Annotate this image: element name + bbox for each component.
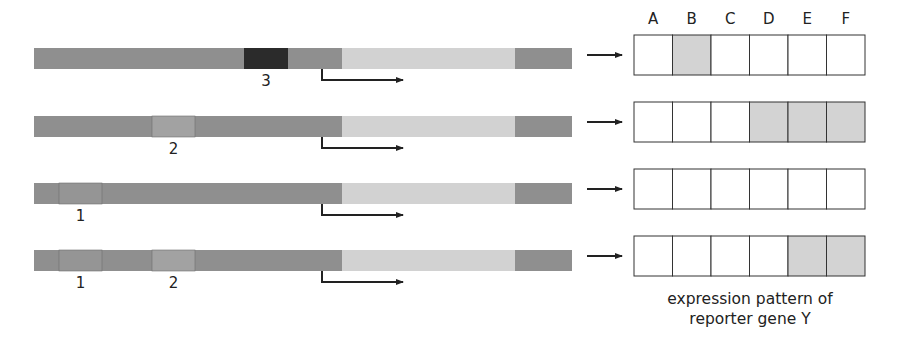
column-header-f: F bbox=[841, 10, 850, 28]
column-header-a: A bbox=[648, 10, 659, 28]
expression-cell-f bbox=[827, 102, 866, 142]
expression-cell-f bbox=[827, 35, 866, 75]
expression-cell-a bbox=[634, 236, 673, 276]
element-label-2: 2 bbox=[169, 140, 179, 158]
expression-grid bbox=[634, 35, 865, 75]
expression-cell-b bbox=[673, 102, 712, 142]
column-header-c: C bbox=[725, 10, 735, 28]
expression-cell-c bbox=[711, 102, 750, 142]
expression-cell-b bbox=[673, 236, 712, 276]
construct-row: 2 bbox=[34, 102, 865, 158]
transcription-start-arrow bbox=[322, 271, 403, 282]
regulatory-region bbox=[34, 48, 342, 69]
expression-grid bbox=[634, 236, 865, 276]
expression-grid bbox=[634, 169, 865, 209]
expression-cell-f bbox=[827, 236, 866, 276]
expression-cell-b bbox=[673, 35, 712, 75]
regulatory-element-2 bbox=[152, 116, 195, 137]
construct-row: 3 bbox=[34, 35, 865, 90]
expression-grid bbox=[634, 102, 865, 142]
caption-line-2: reporter gene Y bbox=[689, 310, 811, 328]
element-label-1: 1 bbox=[76, 207, 86, 225]
expression-cell-e bbox=[788, 236, 827, 276]
construct-row: 12 bbox=[34, 236, 865, 292]
element-label-2: 2 bbox=[169, 274, 179, 292]
terminator-region bbox=[515, 183, 572, 204]
column-header-d: D bbox=[763, 10, 775, 28]
expression-cell-c bbox=[711, 35, 750, 75]
expression-cell-d bbox=[750, 35, 789, 75]
reporter-gene-y bbox=[342, 48, 515, 69]
expression-cell-f bbox=[827, 169, 866, 209]
regulatory-element-2 bbox=[152, 250, 195, 271]
transcription-start-arrow bbox=[322, 69, 403, 80]
regulatory-element-1 bbox=[59, 183, 102, 204]
reporter-gene-diagram: ABCDEF 32112 expression pattern of repor… bbox=[0, 0, 903, 349]
column-header-e: E bbox=[803, 10, 812, 28]
element-label-1: 1 bbox=[76, 274, 86, 292]
construct-rows: 32112 bbox=[34, 35, 865, 292]
reporter-gene-y bbox=[342, 183, 515, 204]
expression-cell-e bbox=[788, 35, 827, 75]
column-header-b: B bbox=[687, 10, 697, 28]
expression-cell-b bbox=[673, 169, 712, 209]
element-label-3: 3 bbox=[261, 72, 271, 90]
regulatory-element-1 bbox=[59, 250, 102, 271]
regulatory-element-3 bbox=[244, 48, 288, 69]
caption-line-1: expression pattern of bbox=[667, 290, 833, 308]
expression-cell-d bbox=[750, 236, 789, 276]
expression-cell-d bbox=[750, 102, 789, 142]
expression-cell-c bbox=[711, 169, 750, 209]
reporter-gene-y bbox=[342, 250, 515, 271]
terminator-region bbox=[515, 48, 572, 69]
transcription-start-arrow bbox=[322, 204, 403, 215]
terminator-region bbox=[515, 116, 572, 137]
construct-row: 1 bbox=[34, 169, 865, 225]
column-headers: ABCDEF bbox=[648, 10, 850, 28]
terminator-region bbox=[515, 250, 572, 271]
expression-cell-a bbox=[634, 169, 673, 209]
expression-cell-e bbox=[788, 169, 827, 209]
expression-cell-a bbox=[634, 35, 673, 75]
expression-cell-a bbox=[634, 102, 673, 142]
reporter-gene-y bbox=[342, 116, 515, 137]
expression-cell-d bbox=[750, 169, 789, 209]
expression-cell-e bbox=[788, 102, 827, 142]
expression-cell-c bbox=[711, 236, 750, 276]
transcription-start-arrow bbox=[322, 137, 403, 148]
